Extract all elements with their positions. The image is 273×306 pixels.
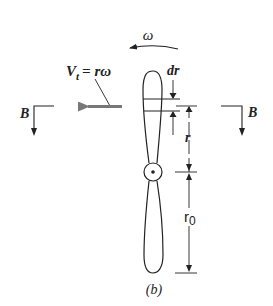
velocity-leader-line (95, 79, 110, 106)
r0-arrowhead-bottom (186, 265, 192, 272)
propeller-blade-diagram: ω Vt= rω B B dr r r0 (b) (0, 0, 273, 306)
section-marker-left (31, 106, 54, 136)
tangential-velocity-label: Vt= rω (66, 63, 111, 82)
dr-label: dr (167, 63, 180, 78)
section-marker-right (221, 106, 245, 136)
hub-center-dot (151, 170, 155, 174)
omega-label: ω (143, 27, 154, 43)
upper-blade (143, 71, 162, 163)
r-arrowhead-bottom (186, 164, 192, 171)
section-label-right: B (247, 105, 257, 120)
r-label: r (185, 130, 191, 145)
rotation-arrow (130, 46, 178, 49)
lower-blade (144, 181, 163, 273)
section-label-left: B (19, 106, 29, 121)
figure-caption: (b) (146, 282, 163, 298)
